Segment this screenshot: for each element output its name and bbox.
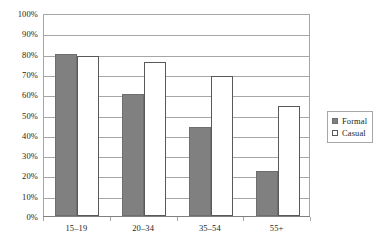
y-axis-tick-label: 100%	[18, 10, 38, 19]
bar-casual	[144, 62, 166, 216]
x-axis-category-label: 15–19	[66, 224, 88, 233]
x-axis-tick	[243, 217, 244, 221]
y-axis-tick-label: 70%	[22, 71, 38, 80]
y-axis-tick-label: 10%	[22, 192, 38, 201]
y-axis-tick-label: 60%	[22, 91, 38, 100]
bar-formal	[55, 54, 77, 216]
x-axis-tick	[177, 217, 178, 221]
x-axis-category-label: 20–34	[132, 224, 154, 233]
x-axis-tick	[110, 217, 111, 221]
plot-area	[43, 14, 310, 217]
y-axis-tick-label: 0%	[26, 213, 38, 222]
bar-casual	[211, 76, 233, 216]
y-axis-tick-label: 20%	[22, 172, 38, 181]
legend-item-formal: Formal	[332, 115, 367, 127]
y-axis-tick-label: 50%	[22, 111, 38, 120]
legend-swatch-casual-icon	[332, 130, 338, 136]
x-axis-category-label: 35–54	[199, 224, 221, 233]
y-axis-tick-label: 90%	[22, 30, 38, 39]
bar-formal	[122, 94, 144, 216]
legend-label-casual: Casual	[342, 129, 366, 138]
x-axis-category-label: 55+	[270, 224, 284, 233]
bars-layer	[44, 15, 309, 216]
x-axis-tick	[43, 217, 44, 221]
bar-chart: 0%10%20%30%40%50%60%70%80%90%100% Formal…	[0, 0, 383, 249]
y-axis: 0%10%20%30%40%50%60%70%80%90%100%	[0, 0, 43, 249]
chart-legend: Formal Casual	[327, 111, 373, 143]
y-axis-tick-label: 80%	[22, 50, 38, 59]
y-axis-tick-label: 30%	[22, 152, 38, 161]
legend-swatch-formal-icon	[332, 118, 338, 124]
legend-label-formal: Formal	[342, 117, 367, 126]
x-axis-tick	[310, 217, 311, 221]
bar-casual	[278, 106, 300, 216]
y-axis-tick-label: 40%	[22, 132, 38, 141]
legend-item-casual: Casual	[332, 127, 367, 139]
bar-formal	[256, 171, 278, 216]
bar-formal	[189, 127, 211, 216]
bar-casual	[77, 56, 99, 216]
